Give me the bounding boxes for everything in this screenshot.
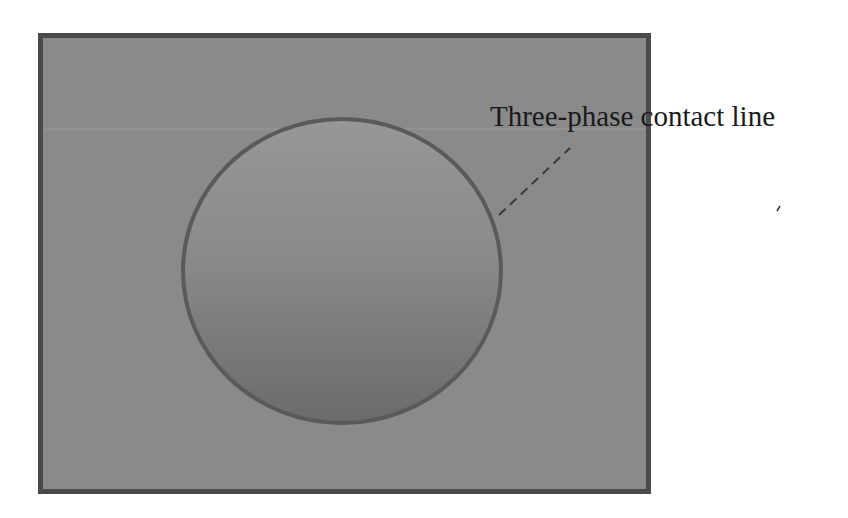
stray-mark	[777, 206, 780, 211]
three-phase-contact-line-label: Three-phase contact line	[490, 102, 775, 131]
droplet-circle	[183, 119, 501, 423]
diagram-svg	[0, 0, 848, 518]
diagram-canvas: Three-phase contact line	[0, 0, 848, 518]
